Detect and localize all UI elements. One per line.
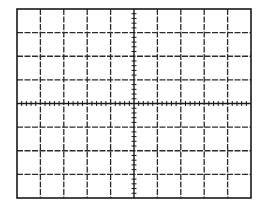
oscilloscope-graticule [0,0,264,209]
graticule-svg [0,0,264,209]
